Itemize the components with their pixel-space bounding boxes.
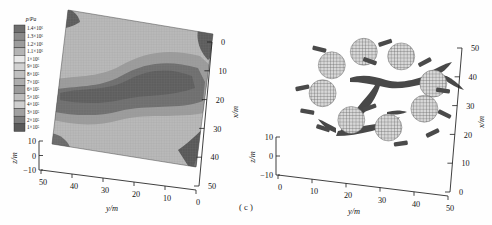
left-plot-svg: p/Pa 1.4×10⁶1.3×10⁶1.2×10⁶1.1×10⁶1×10⁶9×… bbox=[0, 0, 250, 225]
dark-bar-marker bbox=[312, 45, 327, 53]
dark-bar-marker bbox=[425, 128, 440, 138]
axis-tick-label: 0 bbox=[221, 38, 225, 47]
colorbar-label-stack: 1.4×10⁶1.3×10⁶1.2×10⁶1.1×10⁶1×10⁶9×10⁵8×… bbox=[27, 25, 43, 130]
colorbar-swatch-stack bbox=[14, 25, 25, 131]
axis-tick-label: 10 bbox=[310, 187, 318, 196]
axis-tick-label: 30 bbox=[466, 102, 474, 111]
colorbar-swatch bbox=[14, 33, 25, 41]
colorbar-swatch bbox=[14, 25, 25, 33]
axis-tick-label: 30 bbox=[101, 186, 109, 195]
left-contour-panel: p/Pa 1.4×10⁶1.3×10⁶1.2×10⁶1.1×10⁶1×10⁶9×… bbox=[0, 0, 250, 225]
colorbar-tick-label: 2×10⁵ bbox=[27, 117, 40, 123]
axis-tick-label: 40 bbox=[469, 73, 477, 82]
hatched-disc-marker bbox=[420, 70, 447, 97]
colorbar-title: p/Pa bbox=[25, 16, 37, 22]
dark-bar-marker bbox=[300, 108, 315, 115]
axis-tick-label: 0 bbox=[278, 183, 282, 192]
axis-tick-label: 10 bbox=[461, 159, 469, 168]
axis-tick-label: −10 bbox=[260, 171, 273, 180]
right-z-axis: 100−10 z/m bbox=[248, 133, 280, 180]
hatched-disc-marker bbox=[318, 52, 345, 79]
colorbar-swatch bbox=[14, 124, 25, 132]
axis-tick-label: 40 bbox=[211, 153, 219, 162]
left-x-axis-label: x/m bbox=[231, 106, 240, 119]
dark-bar-marker bbox=[378, 39, 393, 48]
axis-tick-label: 10 bbox=[218, 67, 226, 76]
colorbar-tick-label: 1.4×10⁶ bbox=[27, 25, 43, 31]
axis-tick-label: 0 bbox=[269, 152, 273, 161]
colorbar-swatch bbox=[14, 71, 25, 79]
axis-tick-label: 20 bbox=[464, 131, 472, 140]
right-z-axis-label: z/m bbox=[248, 151, 257, 164]
colorbar-swatch bbox=[14, 101, 25, 109]
pressure-surface bbox=[45, 5, 220, 175]
colorbar-swatch bbox=[14, 78, 25, 86]
right-x-axis: 50403020100 x/m bbox=[445, 44, 486, 197]
colorbar-tick-label: 1.2×10⁶ bbox=[27, 41, 43, 47]
hatched-disc-marker bbox=[388, 43, 415, 70]
colorbar-swatch bbox=[14, 63, 25, 71]
colorbar-tick-label: 1×10⁵ bbox=[27, 124, 40, 130]
colorbar-swatch bbox=[14, 55, 25, 63]
figure-container: p/Pa 1.4×10⁶1.3×10⁶1.2×10⁶1.1×10⁶1×10⁶9×… bbox=[0, 0, 492, 225]
colorbar-tick-label: 4×10⁵ bbox=[27, 101, 40, 107]
dark-bar-marker bbox=[295, 84, 310, 91]
colorbar-tick-label: 7×10⁵ bbox=[27, 79, 40, 85]
axis-tick-label: 20 bbox=[216, 96, 224, 105]
colorbar-swatch bbox=[14, 86, 25, 94]
axis-tick-label: 10 bbox=[265, 133, 273, 142]
left-z-axis-label: z/m bbox=[10, 152, 19, 165]
colorbar-swatch bbox=[14, 109, 25, 117]
axis-tick-label: 30 bbox=[213, 125, 221, 134]
hatched-disc-marker bbox=[309, 80, 336, 107]
colorbar-tick-label: 5×10⁵ bbox=[27, 94, 40, 100]
axis-tick-label: 50 bbox=[39, 178, 47, 187]
colorbar-swatch bbox=[14, 40, 25, 48]
colorbar-tick-label: 8×10⁵ bbox=[27, 71, 40, 77]
right-scatter-panel: 100−10 z/m 01020304050 y/m 50403020100 x… bbox=[250, 0, 492, 225]
colorbar-tick-label: 9×10⁵ bbox=[27, 63, 40, 69]
colorbar-swatch bbox=[14, 48, 25, 56]
subfigure-caption: ( c ) bbox=[239, 202, 253, 212]
axis-tick-label: 50 bbox=[208, 182, 216, 191]
colorbar-tick-label: 1×10⁶ bbox=[27, 56, 40, 62]
dark-bar-marker bbox=[437, 109, 452, 119]
hatched-disc-marker bbox=[375, 114, 402, 141]
colorbar-tick-label: 6×10⁵ bbox=[27, 86, 40, 92]
axis-tick-label: 10 bbox=[28, 137, 36, 146]
axis-tick-label: 50 bbox=[471, 44, 479, 53]
axis-tick-label: 0 bbox=[32, 152, 36, 161]
colorbar-swatch bbox=[14, 93, 25, 101]
right-plot-svg: 100−10 z/m 01020304050 y/m 50403020100 x… bbox=[250, 0, 492, 225]
axis-tick-label: 40 bbox=[70, 182, 78, 191]
colorbar-tick-label: 3×10⁵ bbox=[27, 109, 40, 115]
dark-bar-marker bbox=[394, 140, 408, 146]
axis-tick-label: −10 bbox=[23, 166, 36, 175]
right-x-axis-label: x/m bbox=[477, 116, 486, 129]
colorbar-tick-label: 1.1×10⁶ bbox=[27, 48, 43, 54]
hatched-disc-marker bbox=[338, 107, 365, 134]
colorbar-tick-label: 1.3×10⁶ bbox=[27, 33, 43, 39]
pressure-colorbar: p/Pa 1.4×10⁶1.3×10⁶1.2×10⁶1.1×10⁶1×10⁶9×… bbox=[14, 16, 43, 131]
left-z-axis: 100−10 z/m bbox=[10, 137, 43, 175]
hatched-disc-marker bbox=[411, 95, 438, 122]
dark-bar-marker bbox=[418, 57, 432, 67]
colorbar-swatch bbox=[14, 116, 25, 124]
